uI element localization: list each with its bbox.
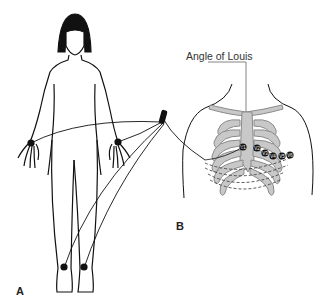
electrode-left-wrist [114, 138, 121, 145]
angle-of-louis-label: Angle of Louis [186, 50, 253, 62]
electrode-v6: V6 [286, 151, 293, 158]
rib-cage [209, 105, 283, 195]
svg-text:V5: V5 [279, 154, 285, 159]
svg-text:V2: V2 [254, 146, 260, 151]
electrode-left-ankle [80, 263, 87, 270]
electrode-v3: V3 [261, 149, 268, 156]
electrode-v5: V5 [278, 152, 285, 159]
lead-connector [158, 109, 167, 124]
limb-electrodes [27, 138, 121, 270]
svg-text:V6: V6 [287, 153, 293, 158]
ecg-electrode-diagram: V1 V2 V3 V4 V5 V6 Angle of Louis A B [0, 0, 335, 308]
diagram-canvas: V1 V2 V3 V4 V5 V6 [0, 0, 335, 308]
electrode-right-wrist [27, 139, 34, 146]
body-figure [18, 14, 130, 292]
electrode-v2: V2 [253, 144, 260, 151]
svg-text:V1: V1 [240, 145, 246, 150]
svg-text:V3: V3 [262, 151, 268, 156]
svg-text:V4: V4 [270, 154, 276, 159]
panel-label-b: B [176, 220, 184, 232]
electrode-v4: V4 [269, 152, 276, 159]
panel-label-a: A [16, 285, 24, 297]
electrode-right-ankle [60, 263, 67, 270]
